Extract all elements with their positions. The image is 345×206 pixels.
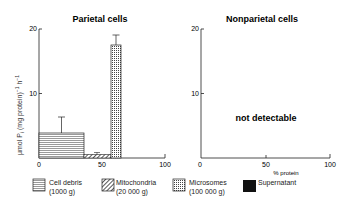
legend-item-cell-debris: Cell debris (1000 g) — [33, 179, 83, 196]
y-tick-10: 10 — [29, 90, 37, 97]
svg-text:(20 000 g): (20 000 g) — [116, 188, 148, 196]
y-axis-label: µmol Pi (mg protein)−1 h−1 — [14, 75, 25, 155]
chart-nonparietal: Nonparietal cells 20 10 0 50 100 % prote… — [191, 14, 336, 176]
y-tick-20: 20 — [29, 25, 37, 32]
bar-cell-debris — [39, 117, 84, 158]
chart-parietal: Parietal cells µmol Pi (mg protein)−1 h−… — [14, 14, 171, 168]
y-tick-10-right: 10 — [191, 90, 199, 97]
x-tick-100: 100 — [159, 161, 171, 168]
svg-text:Mitochondria: Mitochondria — [116, 179, 156, 186]
x-tick-0: 0 — [37, 161, 41, 168]
bar-microsomes — [111, 35, 121, 158]
figure: Parietal cells µmol Pi (mg protein)−1 h−… — [0, 0, 345, 206]
x-tick-100-right: 100 — [324, 161, 336, 168]
legend-item-microsomes: Microsomes (100 000 g) — [173, 179, 227, 196]
svg-text:Cell debris: Cell debris — [49, 179, 83, 186]
x-axis-label: % protein — [273, 170, 298, 176]
chart-title-parietal: Parietal cells — [72, 14, 127, 24]
bar-mitochondria — [84, 153, 111, 159]
legend-item-mitochondria: Mitochondria (20 000 g) — [102, 179, 156, 196]
svg-text:Microsomes: Microsomes — [189, 179, 227, 186]
legend-item-supernatant: Supernatant — [243, 179, 296, 192]
not-detectable-note: not detectable — [235, 113, 296, 123]
svg-text:(1000 g): (1000 g) — [49, 188, 75, 196]
x-tick-50-right: 50 — [262, 161, 270, 168]
chart-title-nonparietal: Nonparietal cells — [226, 14, 298, 24]
y-tick-20-right: 20 — [191, 25, 199, 32]
svg-text:(100 000 g): (100 000 g) — [189, 188, 225, 196]
legend: Cell debris (1000 g) Mitochondria (20 00… — [33, 179, 296, 196]
x-tick-0-right: 0 — [198, 161, 202, 168]
x-tick-50: 50 — [98, 161, 106, 168]
svg-text:Supernatant: Supernatant — [258, 179, 296, 187]
